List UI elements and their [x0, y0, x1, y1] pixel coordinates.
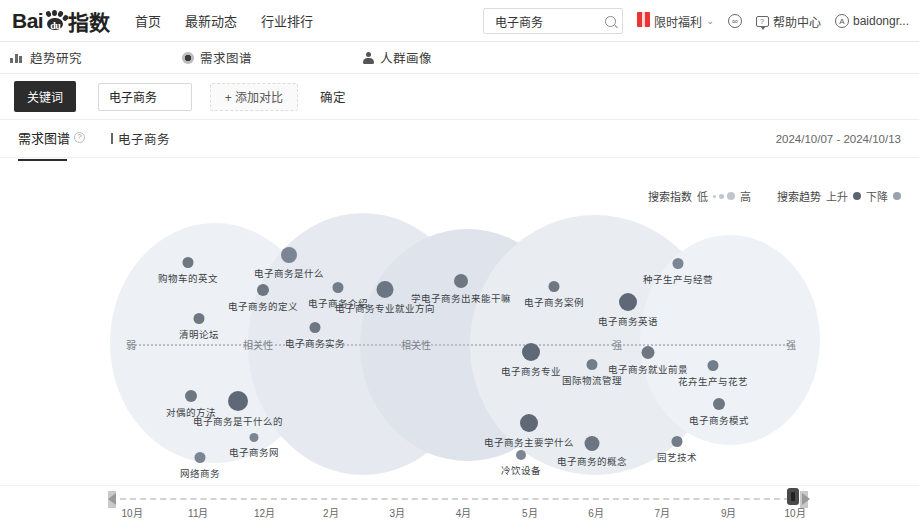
- limited-offer-menu[interactable]: 限时福利 ⌄: [637, 13, 714, 30]
- tab-demand-graph[interactable]: 需求图谱 ?: [18, 128, 85, 150]
- graph-node-bubble[interactable]: [619, 293, 637, 311]
- subnav-item-demand-graph[interactable]: 需求图谱: [182, 48, 252, 67]
- timeline-tick-label: 7月: [655, 505, 671, 520]
- graph-node-label: 种子生产与经营: [643, 272, 713, 286]
- graph-node-label: 冷饮设备: [501, 463, 541, 477]
- help-center-label: 帮助中心: [773, 13, 821, 30]
- timeline-tick-label: 11月: [188, 505, 208, 520]
- graph-node-bubble[interactable]: [257, 284, 269, 296]
- graph-node-bubble[interactable]: [522, 343, 540, 361]
- timeline-tick-label: 12月: [254, 505, 275, 520]
- graph-node-label: 电子商务实务: [285, 336, 345, 350]
- graph-node-bubble[interactable]: [250, 433, 259, 442]
- graph-node-bubble[interactable]: [587, 359, 598, 370]
- link-share-button[interactable]: ∞: [728, 14, 742, 28]
- graph-node-bubble[interactable]: [516, 450, 526, 460]
- graph-node-label: 电子商务主要学什么: [484, 435, 574, 449]
- graph-node-bubble[interactable]: [194, 313, 205, 324]
- baidu-index-logo[interactable]: Bai du 指数: [12, 6, 109, 36]
- legend-search-index: 搜索指数 低 高: [648, 188, 751, 204]
- subnav-label-demand: 需求图谱: [200, 48, 252, 67]
- current-keyword-text: 电子商务: [118, 129, 170, 148]
- subnav-item-trend-research[interactable]: 趋势研究: [10, 48, 82, 67]
- timeline-tick-label: 5月: [522, 505, 538, 520]
- graph-node-label: 网络商务: [180, 466, 220, 480]
- panel-title-bar: 需求图谱 ? 电子商务 2024/10/07 - 2024/10/13: [0, 120, 919, 158]
- timeline-tick-label: 6月: [588, 505, 604, 520]
- timeline-track[interactable]: [120, 498, 790, 500]
- logo-du-text: du: [50, 20, 60, 31]
- graph-node-label: 电子商务的定义: [228, 299, 298, 313]
- axis-label-strong: 强: [786, 337, 796, 352]
- timeline-slider[interactable]: 10月11月12月2月3月4月5月6月7月9月10月: [0, 485, 919, 525]
- graph-node-bubble[interactable]: [183, 257, 194, 268]
- graph-node-label: 学电子商务出来能干嘛: [411, 291, 511, 305]
- graph-node-bubble[interactable]: [673, 258, 684, 269]
- keyword-input[interactable]: [107, 89, 183, 105]
- logo-text-index: 指数: [68, 6, 109, 36]
- keyword-input-wrapper[interactable]: [98, 83, 192, 111]
- secondary-nav: 趋势研究 需求图谱 人群画像: [0, 42, 919, 74]
- legend-index-high: 高: [740, 188, 751, 204]
- graph-node-bubble[interactable]: [377, 281, 394, 298]
- subnav-label-trend: 趋势研究: [30, 48, 82, 67]
- link-icon: ∞: [728, 14, 742, 28]
- username-label: baidongr...: [853, 14, 909, 28]
- legend-size-scale-icon: [713, 192, 735, 200]
- demand-graph-icon: [182, 52, 194, 64]
- graph-node-bubble[interactable]: [454, 274, 468, 288]
- legend-index-low: 低: [697, 188, 708, 204]
- graph-node-bubble[interactable]: [708, 360, 719, 371]
- chevron-down-icon: ⌄: [706, 16, 714, 26]
- graph-node-label: 清明论坛: [179, 327, 219, 341]
- user-account-menu[interactable]: A baidongr...: [835, 14, 909, 28]
- paw-icon: du: [44, 10, 67, 31]
- correlation-axis: [128, 344, 793, 346]
- help-question-icon[interactable]: ?: [74, 132, 85, 143]
- logo-text-bai: Bai: [12, 9, 43, 33]
- graph-node-bubble[interactable]: [281, 247, 297, 263]
- legend-trend-title: 搜索趋势: [777, 188, 821, 204]
- search-input[interactable]: [493, 13, 605, 29]
- graph-node-label: 购物车的英文: [158, 271, 218, 285]
- graph-node-bubble[interactable]: [585, 436, 600, 451]
- graph-node-bubble[interactable]: [549, 281, 560, 292]
- graph-node-bubble[interactable]: [642, 346, 655, 359]
- graph-node-label: 电子商务的概念: [557, 454, 627, 468]
- header-search-box[interactable]: [483, 8, 623, 34]
- graph-node-label: 电子商务专业: [501, 364, 561, 378]
- timeline-tick-label: 2月: [323, 505, 339, 520]
- timeline-tick-label: 3月: [389, 505, 405, 520]
- panel-tab-label: 需求图谱: [18, 128, 70, 147]
- help-chat-icon: ?: [756, 16, 769, 27]
- graph-node-bubble[interactable]: [672, 436, 683, 447]
- timeline-tick-label: 9月: [721, 505, 737, 520]
- graph-node-label: 园艺技术: [657, 450, 697, 464]
- graph-node-bubble[interactable]: [520, 414, 538, 432]
- nav-item-news[interactable]: 最新动态: [185, 11, 237, 30]
- help-center-link[interactable]: ? 帮助中心: [756, 13, 821, 30]
- graph-node-bubble[interactable]: [185, 390, 197, 402]
- nav-item-home[interactable]: 首页: [135, 11, 161, 30]
- legend-trend-down-dot: [893, 192, 901, 200]
- confirm-button[interactable]: 确定: [312, 83, 354, 110]
- graph-node-bubble[interactable]: [333, 282, 344, 293]
- primary-nav: 首页 最新动态 行业排行: [135, 11, 313, 30]
- graph-node-label: 电子商务是干什么的: [193, 414, 283, 428]
- search-icon[interactable]: [605, 16, 616, 27]
- timeline-tick-label: 10月: [784, 505, 805, 520]
- demand-graph-canvas[interactable]: 弱 相关性 相关性 强 强 购物车的英文电子商务是什么电子商务的定义电子商务介绍…: [0, 205, 919, 485]
- nav-item-ranking[interactable]: 行业排行: [261, 11, 313, 30]
- graph-node-bubble[interactable]: [228, 391, 248, 411]
- timeline-handle[interactable]: [787, 488, 799, 505]
- keyword-tag-button[interactable]: 关键词: [14, 81, 76, 112]
- trend-chart-icon: [10, 52, 24, 63]
- gift-icon: [637, 15, 650, 27]
- subnav-item-crowd-portrait[interactable]: 人群画像: [362, 48, 432, 67]
- graph-node-bubble[interactable]: [713, 398, 725, 410]
- graph-node-bubble[interactable]: [195, 452, 206, 463]
- graph-node-bubble[interactable]: [310, 322, 321, 333]
- add-compare-button[interactable]: + 添加对比: [210, 83, 298, 111]
- legend-trend-up-dot: [853, 192, 861, 200]
- top-header: Bai du 指数 首页 最新动态 行业排行 限时福利 ⌄ ∞ ? 帮助中心: [0, 0, 919, 42]
